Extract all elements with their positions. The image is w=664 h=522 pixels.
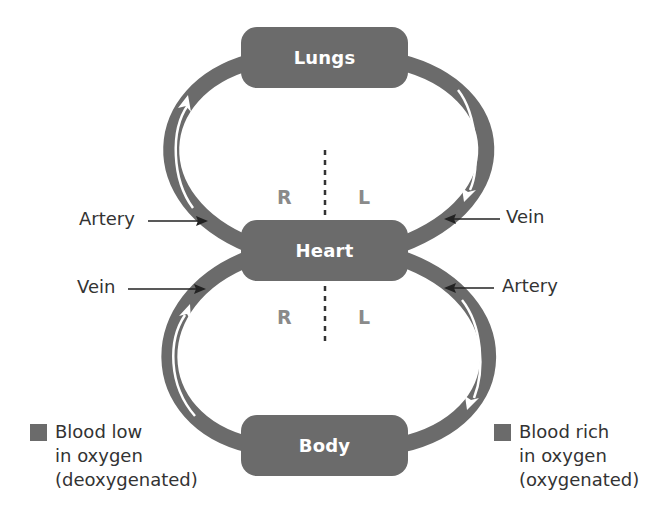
left-side-label-lower: L xyxy=(358,306,370,328)
right-side-label-upper: R xyxy=(277,186,292,208)
lungs-label: Lungs xyxy=(294,47,356,68)
heart-label: Heart xyxy=(296,240,354,261)
systemic-loop-left-vessel xyxy=(169,258,250,445)
legend-line: (deoxygenated) xyxy=(55,468,198,492)
legend-line: in oxygen xyxy=(519,444,639,468)
legend-line: Blood low xyxy=(55,420,198,444)
lungs-box: Lungs xyxy=(241,27,408,88)
artery-label-upper-left: Artery xyxy=(79,208,135,229)
pulmonary-loop-left-vessel xyxy=(171,62,250,245)
legend-swatch-oxygenated xyxy=(494,424,511,441)
left-side-label-upper: L xyxy=(358,186,370,208)
legend-text-oxygenated: Blood rich in oxygen (oxygenated) xyxy=(519,420,639,492)
systemic-loop-right-vessel xyxy=(400,258,488,445)
legend-text-deoxygenated: Blood low in oxygen (deoxygenated) xyxy=(55,420,198,492)
vein-label-upper-right: Vein xyxy=(506,206,544,227)
heart-box: Heart xyxy=(241,220,408,281)
body-box: Body xyxy=(241,415,408,476)
pulmonary-loop-right-vessel xyxy=(400,62,486,245)
circulation-diagram: Lungs Heart Body R L R L Artery Vein Vei… xyxy=(0,0,664,522)
legend-line: Blood rich xyxy=(519,420,639,444)
legend-oxygenated: Blood rich in oxygen (oxygenated) xyxy=(494,420,639,492)
right-side-label-lower: R xyxy=(277,306,292,328)
legend-line: in oxygen xyxy=(55,444,198,468)
body-label: Body xyxy=(299,435,351,456)
legend-line: (oxygenated) xyxy=(519,468,639,492)
artery-label-lower-right: Artery xyxy=(502,275,558,296)
legend-deoxygenated: Blood low in oxygen (deoxygenated) xyxy=(30,420,198,492)
vein-label-lower-left: Vein xyxy=(77,276,115,297)
legend-swatch-deoxygenated xyxy=(30,424,47,441)
